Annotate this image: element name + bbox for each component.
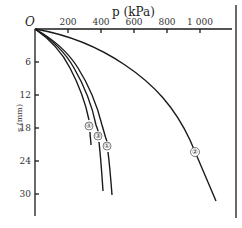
svg-text:①: ①: [104, 142, 110, 150]
y-tick-label: 30: [20, 189, 32, 199]
y-ticks: 6 12 18 24 30: [20, 57, 39, 199]
curve-1-lower: [108, 152, 112, 195]
settlement-chart: O p (kPa) s (mm) 200 400 600 800 1 000 6…: [0, 0, 242, 228]
x-ticks: 200 400 600 800 1 000: [59, 17, 213, 33]
curve-4: [35, 29, 89, 120]
x-tick-label: 400: [92, 17, 109, 27]
y-tick-label: 12: [20, 90, 31, 100]
x-tick-label: 800: [158, 17, 175, 27]
svg-text:④: ④: [86, 122, 92, 130]
svg-text:③: ③: [95, 132, 101, 140]
y-tick-label: 24: [20, 156, 32, 166]
x-tick-label: 1 000: [187, 17, 213, 27]
series-marker-4: ④: [85, 122, 93, 130]
curve-4-lower: [90, 132, 91, 145]
y-tick-label: 18: [20, 123, 32, 133]
series-marker-2: ②: [191, 148, 200, 157]
curve-3-lower: [99, 142, 103, 191]
series-marker-1: ①: [103, 142, 111, 150]
x-tick-label: 200: [59, 17, 76, 27]
svg-text:②: ②: [192, 148, 198, 156]
series-marker-3: ③: [94, 132, 102, 140]
origin-label: O: [25, 15, 35, 29]
x-tick-label: 600: [125, 17, 142, 27]
y-tick-label: 6: [25, 57, 31, 67]
